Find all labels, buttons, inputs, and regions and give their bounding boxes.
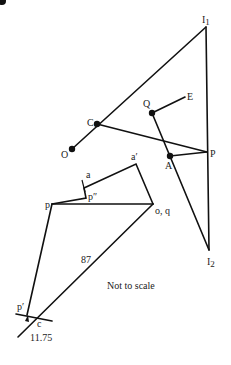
- dimension-87: 87: [81, 254, 91, 265]
- pivot-q: [149, 110, 155, 116]
- pivot-o: [69, 146, 75, 152]
- not-to-scale-note: Not to scale: [107, 280, 155, 291]
- tick-a: [82, 180, 85, 192]
- label-p: p: [45, 199, 50, 210]
- joint-a: [167, 153, 173, 159]
- link-o-i1: [72, 27, 206, 149]
- label-a: A: [165, 160, 173, 171]
- link-a-p: [170, 152, 207, 156]
- label-p-prime: p′: [17, 301, 24, 312]
- label-i1: I1: [202, 14, 210, 27]
- joint-c: [94, 121, 100, 127]
- link-q-e: [152, 97, 185, 113]
- label-a: a: [86, 169, 91, 180]
- label-p-double-prime: p″: [88, 191, 97, 202]
- link-q-i2: [152, 113, 209, 250]
- dimension-11-75: 11.75: [30, 332, 52, 343]
- link-c-p: [97, 124, 207, 152]
- corner-mark: [0, 0, 6, 5]
- link-i1-i2: [206, 27, 209, 250]
- mechanism-diagram: I1 C O Q E A P I2 a′ a p″ p o, q p′ c 87…: [0, 0, 231, 365]
- line-pprime-c: [16, 314, 52, 321]
- label-c: C: [87, 117, 94, 128]
- label-a-prime: a′: [131, 151, 138, 162]
- space-diagram: I1 C O Q E A P I2: [61, 14, 216, 269]
- vector-p-a-oq: [52, 164, 153, 204]
- label-p: P: [210, 148, 216, 159]
- label-o: O: [61, 149, 68, 160]
- label-i2: I2: [207, 256, 215, 269]
- label-e: E: [187, 91, 193, 102]
- label-q: Q: [143, 98, 151, 109]
- vector-p-pprime: [27, 204, 52, 315]
- label-c: c: [37, 318, 42, 329]
- velocity-diagram: a′ a p″ p o, q p′ c 87 11.75: [16, 151, 170, 343]
- label-oq: o, q: [155, 205, 170, 216]
